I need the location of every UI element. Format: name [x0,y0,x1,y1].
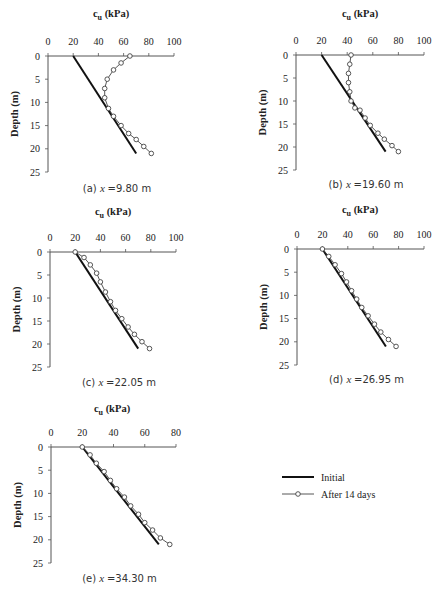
x-tick-label: 40 [343,229,353,240]
y-tick-label: 25 [279,360,289,371]
x-tick-label: 20 [317,35,327,46]
data-point-marker [114,486,119,491]
data-point-marker [134,137,139,142]
legend-initial-label: Initial [321,472,345,483]
series-initial-line [75,252,138,349]
x-axis-title: cu (kPa) [342,204,379,218]
data-point-marker [142,520,147,525]
x-tick-label: 20 [68,36,78,47]
legend-marker-icon [296,492,301,497]
y-tick-label: 15 [32,316,42,327]
chart-panel-a: cu (kPa)0204060801000510152025Depth (m)(… [9,8,182,194]
series-initial-line [73,56,136,153]
x-axis-title: cu (kPa) [93,8,130,22]
data-point-marker [102,469,107,474]
series-after-14-days-line [348,55,398,152]
data-point-marker [346,71,351,76]
data-point-marker [347,90,352,95]
data-point-marker [372,322,377,327]
data-point-marker [320,247,325,252]
y-axis-title: Depth (m) [258,284,270,330]
x-tick-label: 0 [48,232,53,243]
chart-panel-b: cu (kPa)0204060801000510152025Depth (m)(… [257,8,432,190]
x-tick-label: 100 [417,35,432,46]
x-tick-label: 80 [394,229,404,240]
data-point-marker [379,330,384,335]
data-point-marker [326,254,331,259]
x-tick-label: 100 [169,232,184,243]
data-point-marker [368,123,373,128]
legend: InitialAfter 14 days [282,472,376,500]
y-tick-label: 15 [279,313,289,324]
data-point-marker [358,108,363,113]
data-point-marker [136,512,141,517]
x-tick-label: 60 [140,427,150,438]
x-tick-label: 20 [77,427,87,438]
y-axis-title: Depth (m) [9,91,21,137]
y-tick-label: 0 [283,50,288,61]
data-point-marker [366,314,371,319]
x-tick-label: 0 [49,427,54,438]
data-point-marker [102,86,107,91]
data-point-marker [390,143,395,148]
x-tick-label: 40 [95,232,105,243]
x-tick-label: 60 [368,35,378,46]
x-tick-label: 40 [93,36,103,47]
data-point-marker [349,99,354,104]
data-point-marker [73,250,78,255]
data-point-marker [149,151,154,156]
chart-panel-c: cu (kPa)0204060801000510152025Depth (m)(… [11,206,184,388]
x-tick-label: 0 [295,229,300,240]
series-initial-line [322,249,386,346]
data-point-marker [141,144,146,149]
chart-panel-e: cu (kPa)0204060800510152025Depth (m)(e) … [12,403,181,584]
x-axis-title: cu (kPa) [342,8,379,22]
x-tick-label: 80 [146,232,156,243]
data-point-marker [132,332,137,337]
x-axis-title: cu (kPa) [94,403,131,417]
y-axis-title: Depth (m) [12,482,24,528]
y-tick-label: 20 [279,336,289,347]
data-point-marker [122,495,127,500]
y-tick-label: 20 [30,143,40,154]
x-axis-title: cu (kPa) [95,206,132,220]
y-tick-label: 15 [278,119,288,130]
x-tick-label: 40 [342,35,352,46]
data-point-marker [386,337,391,342]
data-point-marker [80,445,85,450]
data-point-marker [94,461,99,466]
panel-caption: (d) x =26.95 m [329,373,404,385]
x-tick-label: 0 [294,35,299,46]
panel-caption: (a) x =9.80 m [83,182,151,194]
x-tick-label: 80 [171,427,181,438]
y-tick-label: 10 [32,293,42,304]
data-point-marker [88,263,93,268]
data-point-marker [382,137,387,142]
y-tick-label: 5 [283,73,288,84]
x-tick-label: 80 [144,36,154,47]
panel-caption: (b) x =19.60 m [329,178,404,190]
data-point-marker [333,262,338,267]
data-point-marker [353,106,358,111]
x-tick-label: 100 [417,229,432,240]
data-point-marker [108,299,113,304]
data-point-marker [339,271,344,276]
y-tick-label: 10 [30,97,40,108]
data-point-marker [349,288,354,293]
data-point-marker [347,62,352,67]
data-point-marker [106,106,111,111]
x-tick-label: 60 [119,36,129,47]
data-point-marker [354,297,359,302]
data-point-marker [396,149,401,154]
x-tick-label: 20 [70,232,80,243]
data-point-marker [126,131,131,136]
y-tick-label: 10 [279,290,289,301]
data-point-marker [128,54,133,59]
y-tick-label: 0 [37,247,42,258]
data-point-marker [363,116,368,121]
y-tick-label: 10 [278,96,288,107]
y-tick-label: 0 [35,51,40,62]
x-tick-label: 0 [46,36,51,47]
data-point-marker [128,504,133,509]
y-tick-label: 20 [33,534,43,545]
